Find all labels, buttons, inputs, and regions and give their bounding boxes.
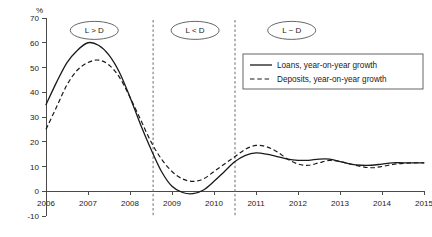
x-tick-label: 2009	[163, 199, 181, 208]
x-tick-label: 2012	[289, 199, 307, 208]
chart-container: 706050403020100-10 200620072008200920102…	[0, 0, 432, 237]
y-tick-label: 10	[30, 163, 39, 172]
y-tick-label: 70	[30, 14, 39, 23]
x-tick-label: 2013	[331, 199, 349, 208]
period-divider-lines	[153, 20, 235, 216]
y-tick-label: 40	[30, 88, 39, 97]
growth-line-chart: 706050403020100-10 200620072008200920102…	[0, 0, 432, 237]
y-axis-ticks: 706050403020100-10	[27, 14, 46, 221]
y-tick-label: -10	[27, 212, 39, 221]
annotation-label: L < D	[186, 26, 205, 35]
y-axis-unit-label: %	[36, 6, 43, 15]
y-tick-label: 0	[35, 187, 40, 196]
x-tick-label: 2015	[415, 199, 432, 208]
y-tick-label: 30	[30, 113, 39, 122]
x-tick-label: 2008	[121, 199, 139, 208]
legend-label-loans: Loans, year-on-year growth	[277, 61, 378, 70]
x-tick-label: 2011	[247, 199, 265, 208]
y-tick-label: 20	[30, 138, 39, 147]
x-tick-label: 2007	[79, 199, 97, 208]
y-tick-label: 60	[30, 39, 39, 48]
annotation-label: L ~ D	[282, 26, 301, 35]
period-annotations: L > DL < DL ~ D	[70, 21, 315, 39]
x-tick-label: 2010	[205, 199, 223, 208]
y-tick-label: 50	[30, 64, 39, 73]
annotation-label: L > D	[85, 26, 104, 35]
x-tick-label: 2014	[373, 199, 391, 208]
chart-legend: Loans, year-on-year growth Deposits, yea…	[243, 54, 423, 89]
legend-label-deposits: Deposits, year-on-year growth	[277, 75, 387, 84]
